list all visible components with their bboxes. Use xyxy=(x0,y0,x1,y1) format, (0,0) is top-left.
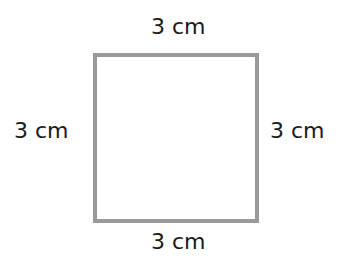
top-side-label: 3 cm xyxy=(151,14,206,40)
square-shape xyxy=(93,53,259,223)
bottom-side-label: 3 cm xyxy=(151,229,206,255)
right-side-label: 3 cm xyxy=(270,118,325,144)
left-side-label: 3 cm xyxy=(14,118,69,144)
